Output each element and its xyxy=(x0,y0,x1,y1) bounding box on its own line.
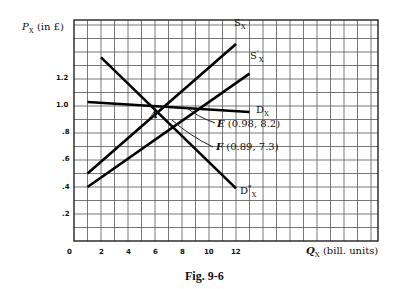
y-tick-1.2: 1.2 xyxy=(56,74,68,82)
y-tick-.8: .8 xyxy=(62,128,70,136)
leader-lines xyxy=(172,107,215,147)
x-tick-8: 8 xyxy=(180,248,185,256)
label-dx-star: D*X xyxy=(240,185,257,199)
point-e-label: E (0.98, 8.2) xyxy=(217,119,280,129)
label-dx: DX xyxy=(256,105,269,118)
x-tick-2: 2 xyxy=(99,248,104,256)
x-tick-0: 0 xyxy=(67,248,72,256)
y-tick-.6: .6 xyxy=(62,155,70,163)
point-f-label: F (0.89, 7.3) xyxy=(216,142,279,152)
label-sx-prime: S'X xyxy=(250,50,264,64)
label-sx: SX xyxy=(234,18,246,31)
figure-caption: Fig. 9-6 xyxy=(185,269,224,284)
x-tick-6: 6 xyxy=(153,248,158,256)
x-tick-4: 4 xyxy=(126,248,131,256)
y-tick-.4: .4 xyxy=(62,183,70,191)
x-tick-10: 10 xyxy=(204,248,214,256)
y-tick-.2: .2 xyxy=(62,210,70,218)
point-a-label: A xyxy=(150,110,158,120)
x-tick-12: 12 xyxy=(231,248,241,256)
y-tick-1.0: 1.0 xyxy=(56,101,68,109)
y-axis-label: PX (in £) xyxy=(22,22,64,35)
x-axis-label: QX (bill. units) xyxy=(306,246,378,259)
